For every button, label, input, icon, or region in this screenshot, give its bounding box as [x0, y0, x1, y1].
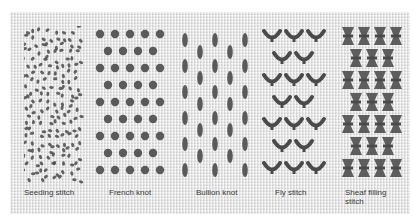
label-french-knot: French knot	[109, 188, 151, 197]
label-line-1: Sheaf filling	[345, 188, 386, 197]
label-fly-stitch: Fly stitch	[275, 188, 307, 197]
french-knot-sample	[94, 26, 170, 186]
label-bullion-knot: Bullion knot	[196, 188, 237, 197]
fly-stitch-sample	[262, 26, 332, 186]
label-seeding-stitch: Seeding stitch	[24, 188, 74, 197]
label-sheaf-filling-stitch: Sheaf filling stitch	[345, 188, 386, 206]
bullion-knot-sample	[180, 26, 256, 186]
fabric-photo: Seeding stitch French knot Bullion knot …	[10, 12, 410, 214]
label-line-2: stitch	[345, 197, 386, 206]
sheaf-filling-sample	[340, 26, 406, 186]
seeding-stitch-sample	[24, 26, 88, 186]
